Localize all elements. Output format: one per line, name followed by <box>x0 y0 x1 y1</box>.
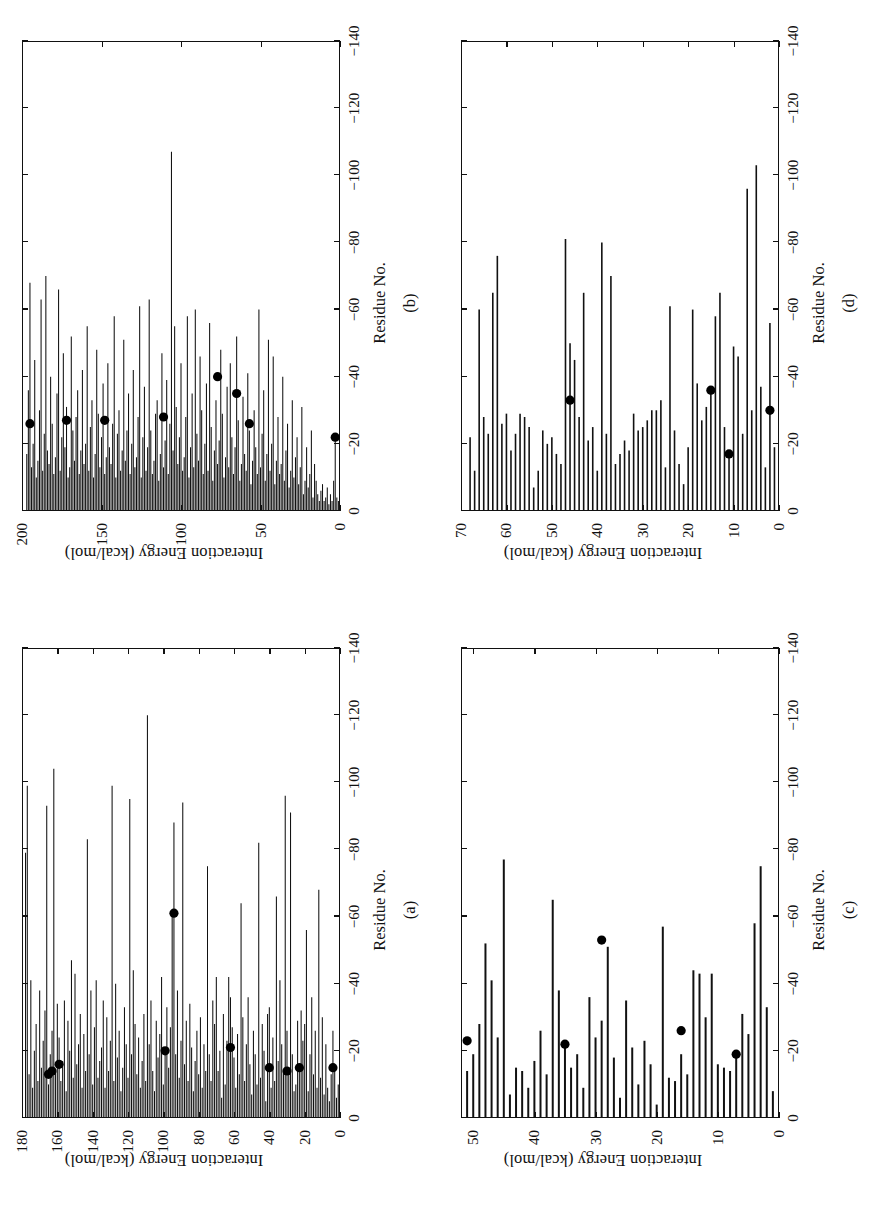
energy-tick-label: −120 <box>346 699 363 730</box>
residue-tick-mark <box>234 648 235 654</box>
energy-tick-mark <box>773 982 779 983</box>
highlight-marker <box>295 1063 304 1072</box>
x-axis-label-c: Residue No. <box>809 610 829 1210</box>
energy-tick-label: −60 <box>346 905 363 928</box>
energy-tick-label: −20 <box>785 432 802 455</box>
residue-tick-label: 100 <box>172 523 189 546</box>
energy-tick-mark <box>773 915 779 916</box>
energy-tick-mark <box>22 915 28 916</box>
residue-tick-label: 50 <box>465 1130 482 1145</box>
panel-cell-c: Interaction Energy (kcal/mol) 0102030405… <box>440 607 879 1213</box>
energy-tick-mark <box>334 1049 340 1050</box>
energy-tick-mark <box>461 1117 467 1118</box>
stem-plot-d <box>461 41 779 511</box>
highlight-marker <box>766 406 775 415</box>
residue-tick-label: 40 <box>589 523 606 538</box>
residue-tick-mark <box>128 648 129 654</box>
residue-tick-label: 0 <box>331 1130 348 1138</box>
energy-tick-label: 0 <box>785 508 802 516</box>
residue-tick-mark <box>22 41 23 47</box>
panel-cell-d: Interaction Energy (kcal/mol) 0102030405… <box>440 0 879 607</box>
energy-tick-mark <box>22 781 28 782</box>
energy-tick-label: −140 <box>785 632 802 663</box>
residue-tick-label: 200 <box>13 523 30 546</box>
residue-tick-mark <box>340 648 341 654</box>
energy-tick-label: −20 <box>346 1039 363 1062</box>
energy-tick-mark <box>773 647 779 648</box>
residue-tick-mark <box>304 1112 305 1118</box>
residue-tick-mark <box>22 648 23 654</box>
panel-c: Interaction Energy (kcal/mol) 0102030405… <box>443 610 875 1210</box>
energy-tick-mark <box>22 714 28 715</box>
energy-tick-mark <box>334 647 340 648</box>
stem-plot-c <box>461 648 779 1118</box>
highlight-marker <box>245 419 254 428</box>
residue-tick-label: 20 <box>680 523 697 538</box>
energy-tick-mark <box>22 647 28 648</box>
energy-tick-label: −40 <box>785 972 802 995</box>
x-axis-label-a: Residue No. <box>370 610 390 1210</box>
energy-tick-label: −120 <box>785 93 802 124</box>
stem-plot-a <box>22 648 340 1118</box>
residue-tick-mark <box>92 648 93 654</box>
panel-letter-b: (b) <box>400 3 420 603</box>
residue-tick-mark <box>779 41 780 47</box>
highlight-marker <box>282 1066 291 1075</box>
y-axis-label-b: Interaction Energy (kcal/mol) <box>34 543 294 563</box>
energy-tick-mark <box>22 848 28 849</box>
residue-tick-mark <box>101 41 102 47</box>
highlight-marker <box>463 1036 472 1045</box>
panel-d: Interaction Energy (kcal/mol) 0102030405… <box>443 3 875 603</box>
residue-tick-mark <box>181 41 182 47</box>
energy-tick-mark <box>773 848 779 849</box>
energy-tick-label: −20 <box>785 1039 802 1062</box>
residue-tick-mark <box>234 1112 235 1118</box>
energy-tick-mark <box>22 510 28 511</box>
highlight-marker <box>677 1026 686 1035</box>
residue-tick-label: 50 <box>544 523 561 538</box>
energy-tick-label: −80 <box>346 837 363 860</box>
panel-cell-a: Interaction Energy (kcal/mol) 0204060801… <box>0 607 440 1213</box>
residue-tick-label: 150 <box>93 523 110 546</box>
residue-tick-mark <box>198 648 199 654</box>
residue-tick-label: 140 <box>84 1130 101 1153</box>
energy-tick-mark <box>773 714 779 715</box>
residue-tick-label: 0 <box>771 1130 788 1138</box>
panel-cell-b: Interaction Energy (kcal/mol) 0501001502… <box>0 0 440 607</box>
energy-tick-mark <box>334 915 340 916</box>
energy-tick-label: 0 <box>785 1114 802 1122</box>
energy-tick-mark <box>461 714 467 715</box>
residue-tick-label: 100 <box>155 1130 172 1153</box>
residue-tick-label: 120 <box>119 1130 136 1153</box>
residue-tick-label: 30 <box>634 523 651 538</box>
energy-tick-label: −40 <box>785 365 802 388</box>
residue-tick-mark <box>779 505 780 511</box>
highlight-marker <box>213 372 222 381</box>
energy-tick-label: −140 <box>346 632 363 663</box>
plot-area-b: 0501001502000−20−40−60−80−100−120−140 <box>22 41 340 511</box>
energy-tick-mark <box>461 510 467 511</box>
energy-tick-mark <box>461 915 467 916</box>
residue-tick-mark <box>57 1112 58 1118</box>
residue-tick-mark <box>340 41 341 47</box>
residue-tick-mark <box>198 1112 199 1118</box>
energy-tick-mark <box>22 1117 28 1118</box>
highlight-marker <box>264 1063 273 1072</box>
panel-letter-d: (d) <box>839 3 859 603</box>
energy-tick-mark <box>334 1117 340 1118</box>
energy-tick-mark <box>22 1049 28 1050</box>
energy-tick-mark <box>461 848 467 849</box>
highlight-marker <box>707 386 716 395</box>
residue-tick-mark <box>269 1112 270 1118</box>
residue-tick-label: 20 <box>648 1130 665 1145</box>
residue-tick-label: 40 <box>526 1130 543 1145</box>
highlight-marker <box>169 908 178 917</box>
residue-tick-label: 50 <box>252 523 269 538</box>
y-axis-label-d: Interaction Energy (kcal/mol) <box>473 543 733 563</box>
energy-tick-mark <box>461 1049 467 1050</box>
residue-tick-mark <box>92 1112 93 1118</box>
energy-tick-label: −40 <box>346 972 363 995</box>
energy-tick-mark <box>773 781 779 782</box>
residue-tick-label: 30 <box>587 1130 604 1145</box>
residue-tick-mark <box>260 505 261 511</box>
